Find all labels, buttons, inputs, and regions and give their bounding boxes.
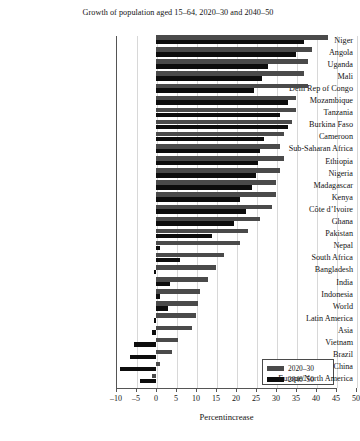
x-axis-tick-label: 15: [212, 394, 220, 403]
bar: [156, 185, 252, 190]
gridline: [357, 36, 358, 388]
category-label: World: [244, 302, 356, 311]
bar: [154, 318, 156, 323]
x-axis-tick-label: –10: [110, 394, 122, 403]
bar: [130, 355, 156, 360]
category-label: Indonesia: [244, 290, 356, 299]
bar: [120, 367, 156, 372]
bar: [156, 241, 240, 246]
x-axis-tick-label: 30: [272, 394, 280, 403]
category-label: Brazil: [244, 350, 356, 359]
bar: [156, 173, 256, 178]
bar: [156, 137, 264, 142]
bar: [156, 306, 168, 311]
bar: [156, 40, 304, 45]
category-label: Ghana: [244, 217, 356, 226]
bar: [152, 330, 156, 335]
x-axis-tick-label: 45: [332, 394, 340, 403]
bar: [156, 113, 280, 118]
x-axis-tick-label: –5: [132, 394, 140, 403]
x-axis-tick: [196, 388, 197, 392]
bar: [156, 282, 170, 287]
x-axis-tick: [156, 388, 157, 392]
category-label: India: [244, 278, 356, 287]
bar: [156, 76, 262, 81]
category-label: Bangladesh: [244, 265, 356, 274]
x-axis-label: Percentincrease: [116, 412, 337, 422]
bar: [156, 125, 288, 130]
x-axis-tick: [236, 388, 237, 392]
x-axis-tick-label: 25: [252, 394, 260, 403]
x-axis-tick: [256, 388, 257, 392]
x-axis-tick: [296, 388, 297, 392]
bar: [154, 270, 156, 275]
category-label: Pakistan: [244, 229, 356, 238]
category-label: Nepal: [244, 241, 356, 250]
x-axis-tick: [136, 388, 137, 392]
bar: [156, 265, 216, 270]
x-axis-tick-label: 40: [312, 394, 320, 403]
bar: [140, 379, 156, 384]
chart-title: Growth of population aged 15–64, 2020–30…: [0, 8, 356, 17]
category-label: South Africa: [244, 253, 356, 262]
bar: [156, 161, 258, 166]
x-axis-tick: [276, 388, 277, 392]
bar: [156, 64, 268, 69]
x-axis-tick: [336, 388, 337, 392]
y-axis-line: [116, 36, 117, 389]
x-axis-tick-label: 35: [292, 394, 300, 403]
x-axis-tick-label: 0: [154, 394, 158, 403]
bar: [156, 258, 180, 263]
x-axis-line: [116, 388, 337, 389]
bar: [156, 326, 192, 331]
bar: [156, 289, 200, 294]
x-axis-tick-label: 10: [192, 394, 200, 403]
x-axis-tick: [176, 388, 177, 392]
bar: [156, 88, 254, 93]
bar: [156, 52, 296, 57]
bar: [156, 100, 288, 105]
bar: [156, 209, 246, 214]
bar: [156, 313, 196, 318]
category-label: China: [244, 362, 356, 371]
category-label: Europe/North America: [244, 374, 356, 383]
bar: [134, 342, 156, 347]
bar: [156, 197, 240, 202]
category-label: Vietnam: [244, 338, 356, 347]
x-axis-tick-label: 50: [352, 394, 360, 403]
bar: [156, 294, 160, 299]
category-label: Latin America: [244, 314, 356, 323]
x-axis-tick-label: 20: [232, 394, 240, 403]
x-axis-tick: [316, 388, 317, 392]
x-axis-tick: [356, 388, 357, 392]
x-axis-tick: [216, 388, 217, 392]
bar: [156, 149, 260, 154]
bar: [156, 234, 212, 239]
bar: [156, 246, 160, 251]
gridline: [137, 36, 138, 388]
bar: [156, 221, 234, 226]
bar: [156, 338, 178, 343]
x-axis-tick: [116, 388, 117, 392]
bar: [156, 350, 172, 355]
bar: [156, 362, 160, 367]
category-label: Asia: [244, 326, 356, 335]
x-axis-tick-label: 5: [174, 394, 178, 403]
